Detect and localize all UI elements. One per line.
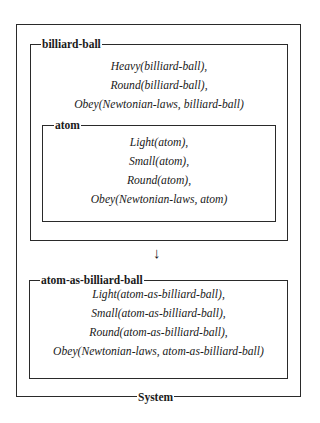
atom-as-billiard-ball-label: atom-as-billiard-ball — [40, 274, 144, 286]
fact: Obey(Newtonian-laws, billiard-ball) — [31, 95, 287, 114]
arrow-down-icon: ↓ — [153, 246, 161, 261]
fact: Light(atom), — [43, 133, 275, 152]
atom-as-billiard-ball-box: Light(atom-as-billiard-ball), Small(atom… — [29, 280, 288, 379]
fact: Round(atom-as-billiard-ball), — [30, 323, 287, 342]
fact: Round(atom), — [43, 171, 275, 190]
system-label: System — [137, 391, 174, 403]
atom-label: atom — [54, 119, 81, 131]
fact: Small(atom), — [43, 152, 275, 171]
fact: Light(atom-as-billiard-ball), — [30, 285, 287, 304]
fact: Obey(Newtonian-laws, atom-as-billiard-ba… — [30, 342, 287, 361]
fact: Heavy(billiard-ball), — [31, 57, 287, 76]
atom-as-billiard-ball-facts: Light(atom-as-billiard-ball), Small(atom… — [30, 285, 287, 361]
billiard-ball-label: billiard-ball — [41, 38, 102, 50]
billiard-ball-facts: Heavy(billiard-ball), Round(billiard-bal… — [31, 57, 287, 114]
fact: Obey(Newtonian-laws, atom) — [43, 190, 275, 209]
atom-facts: Light(atom), Small(atom), Round(atom), O… — [43, 133, 275, 209]
fact: Round(billiard-ball), — [31, 76, 287, 95]
atom-box: Light(atom), Small(atom), Round(atom), O… — [42, 125, 276, 222]
fact: Small(atom-as-billiard-ball), — [30, 304, 287, 323]
